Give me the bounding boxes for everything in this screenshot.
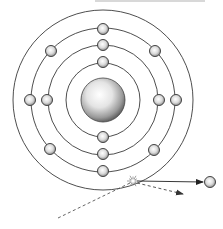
electron-icon (154, 95, 165, 106)
scattered-photon-arrow (137, 183, 183, 194)
electron-icon (45, 144, 56, 155)
atom-diagram (0, 0, 223, 229)
diagram-canvas (0, 0, 223, 229)
electron-icon (42, 95, 53, 106)
electron-icon (149, 145, 160, 156)
electron-icon (46, 46, 57, 57)
electron-icon (98, 166, 109, 177)
electron-icon (171, 95, 182, 106)
electron-icon (98, 57, 109, 68)
nucleus-icon (81, 78, 125, 122)
electron-icon (98, 24, 109, 35)
ejected-electron-icon (205, 177, 216, 188)
ejected-electron-arrow (137, 181, 203, 182)
electron-icon (25, 95, 36, 106)
top-edge-bar (95, 0, 205, 2)
electron-icon (98, 132, 109, 143)
collision-burst-icon (127, 176, 139, 186)
electron-icon (98, 40, 109, 51)
incoming-photon-path (58, 183, 130, 218)
electron-icon (98, 149, 109, 160)
electron-icon (150, 46, 161, 57)
